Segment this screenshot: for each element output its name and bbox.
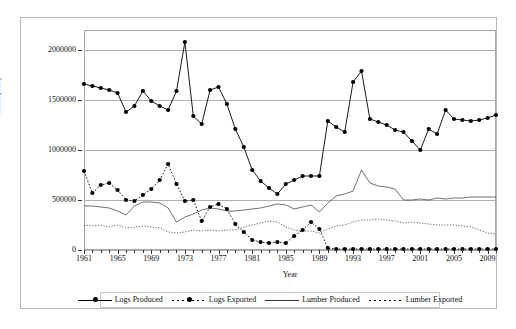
x-tick-mark	[244, 250, 245, 253]
data-point-marker	[191, 114, 195, 118]
x-tick-label: 2005	[446, 254, 462, 263]
data-point-marker	[250, 238, 254, 242]
data-point-marker	[132, 199, 136, 203]
data-point-marker	[107, 181, 111, 185]
data-point-marker	[174, 182, 178, 186]
legend-label: Lumber Exported	[406, 296, 463, 304]
legend-item-lumber-produced[interactable]: Lumber Produced	[265, 296, 360, 304]
x-tick-label: 1973	[177, 254, 193, 263]
data-point-marker	[275, 240, 279, 244]
data-point-marker	[208, 88, 212, 92]
x-tick-mark	[294, 250, 295, 253]
data-point-marker	[317, 174, 321, 178]
x-tick-mark	[261, 250, 262, 253]
data-point-marker	[292, 234, 296, 238]
data-point-marker	[359, 69, 363, 73]
x-tick-mark	[395, 250, 396, 253]
x-tick-label: 2001	[412, 254, 428, 263]
x-tick-mark	[303, 250, 304, 253]
legend-label: Logs Produced	[115, 296, 163, 304]
x-tick-mark	[176, 250, 177, 253]
x-tick-mark	[437, 250, 438, 253]
x-tick-label: 1977	[211, 254, 227, 263]
x-tick-mark	[235, 250, 236, 253]
x-tick-mark	[412, 250, 413, 253]
data-point-marker	[158, 178, 162, 182]
y-tick-label: 1000000	[48, 146, 76, 154]
data-point-marker	[174, 89, 178, 93]
data-point-marker	[267, 186, 271, 190]
plot-area	[84, 30, 496, 250]
chart-figure: 0500000100000015000002000000 Volume( m3)…	[0, 0, 516, 329]
data-point-marker	[284, 241, 288, 245]
x-tick-mark	[227, 250, 228, 253]
y-tick-mark	[78, 150, 82, 151]
x-tick-mark	[126, 250, 127, 253]
data-point-marker	[410, 139, 414, 143]
data-point-marker	[469, 119, 473, 123]
data-point-marker	[99, 86, 103, 90]
x-axis-title: Year	[84, 270, 496, 279]
x-tick-mark	[336, 250, 337, 253]
data-point-marker	[418, 148, 422, 152]
data-point-marker	[460, 118, 464, 122]
data-point-marker	[317, 227, 321, 231]
x-tick-label: 1965	[110, 254, 126, 263]
data-point-marker	[216, 202, 220, 206]
data-point-marker	[435, 132, 439, 136]
data-point-marker	[141, 89, 145, 93]
legend-item-lumber-exported[interactable]: Lumber Exported	[369, 296, 463, 304]
x-tick-label: 1985	[278, 254, 294, 263]
x-tick-mark	[134, 250, 135, 253]
data-point-marker	[90, 191, 94, 195]
data-point-marker	[216, 85, 220, 89]
x-tick-mark	[328, 250, 329, 253]
legend-label: Lumber Produced	[302, 296, 360, 304]
data-point-marker	[250, 168, 254, 172]
x-tick-mark	[92, 250, 93, 253]
data-point-marker	[149, 187, 153, 191]
x-tick-mark	[202, 250, 203, 253]
data-point-marker	[368, 117, 372, 121]
data-point-marker	[124, 198, 128, 202]
data-point-marker	[124, 110, 128, 114]
x-tick-mark	[429, 250, 430, 253]
legend-swatch-icon	[369, 296, 403, 304]
y-tick-label: 1500000	[48, 96, 76, 104]
x-tick-label: 2009	[480, 254, 496, 263]
data-point-marker	[158, 104, 162, 108]
data-point-marker	[301, 228, 305, 232]
series-line	[84, 170, 496, 222]
data-point-marker	[452, 117, 456, 121]
legend-swatch-icon	[172, 296, 206, 304]
data-point-marker	[334, 125, 338, 129]
legend-item-logs-produced[interactable]: Logs Produced	[78, 296, 163, 304]
y-tick-mark	[78, 250, 82, 251]
data-point-marker	[486, 116, 490, 120]
y-tick-label: 0	[72, 246, 76, 254]
data-point-marker	[301, 174, 305, 178]
x-tick-mark	[370, 250, 371, 253]
data-point-marker	[242, 230, 246, 234]
y-tick-label: 500000	[52, 196, 76, 204]
data-point-marker	[267, 241, 271, 245]
data-point-marker	[233, 222, 237, 226]
x-tick-label: 1961	[76, 254, 92, 263]
legend-item-logs-exported[interactable]: Logs Exported	[172, 296, 256, 304]
x-tick-mark	[345, 250, 346, 253]
data-point-marker	[401, 130, 405, 134]
x-tick-mark	[496, 250, 497, 253]
data-point-marker	[427, 127, 431, 131]
x-tick-mark	[479, 250, 480, 253]
data-point-marker	[242, 145, 246, 149]
data-point-marker	[82, 82, 86, 86]
data-point-marker	[183, 199, 187, 203]
legend-label: Logs Exported	[209, 296, 256, 304]
data-point-marker	[259, 179, 263, 183]
data-point-marker	[200, 219, 204, 223]
data-point-marker	[343, 130, 347, 134]
series-line	[84, 164, 496, 249]
y-tick-label: 2000000	[48, 46, 76, 54]
data-point-marker	[393, 128, 397, 132]
data-point-marker	[233, 127, 237, 131]
